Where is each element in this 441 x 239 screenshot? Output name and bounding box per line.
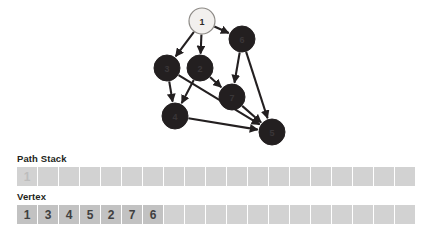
path-stack-cell[interactable]: [185, 167, 205, 186]
vertex-cell[interactable]: [332, 205, 352, 224]
path-stack-cell[interactable]: [332, 167, 352, 186]
graph-node-label: 3: [164, 64, 169, 74]
graph-edge: [176, 32, 194, 57]
path-stack-cell[interactable]: [353, 167, 373, 186]
vertex-cell[interactable]: 5: [80, 205, 100, 224]
graph-panel: 1632745: [0, 0, 441, 152]
vertex-row: 1345276: [17, 205, 415, 224]
path-stack-cell[interactable]: [143, 167, 163, 186]
path-stack-cell[interactable]: 1: [17, 167, 37, 186]
path-stack-row: 1: [17, 167, 415, 186]
graph-node-label: 4: [172, 112, 177, 122]
graph-edge: [214, 27, 228, 34]
vertex-cell[interactable]: 1: [17, 205, 37, 224]
vertex-cell[interactable]: 7: [122, 205, 142, 224]
graph-node-label: 7: [229, 93, 234, 103]
path-stack-cell[interactable]: [290, 167, 310, 186]
path-stack-cell[interactable]: [59, 167, 79, 186]
path-stack-cell[interactable]: [101, 167, 121, 186]
vertex-cell[interactable]: 6: [143, 205, 163, 224]
vertex-cell[interactable]: [206, 205, 226, 224]
vertex-cell[interactable]: [374, 205, 394, 224]
path-stack-cell[interactable]: [164, 167, 184, 186]
path-stack-cell[interactable]: [80, 167, 100, 186]
vertex-title: Vertex: [17, 191, 415, 203]
graph-edge: [169, 81, 172, 101]
path-stack-cell[interactable]: [269, 167, 289, 186]
vertex-cell[interactable]: [227, 205, 247, 224]
path-stack-cell[interactable]: [374, 167, 394, 186]
graph-node-1[interactable]: 1: [189, 8, 215, 34]
path-stack-cell[interactable]: [248, 167, 268, 186]
vertex-cell[interactable]: [248, 205, 268, 224]
graph-node-label: 6: [239, 35, 244, 45]
vertex-cell[interactable]: [353, 205, 373, 224]
graph-edge: [210, 77, 221, 87]
vertex-cell[interactable]: [395, 205, 415, 224]
graph-node-label: 2: [197, 64, 202, 74]
graph-node-7[interactable]: 7: [219, 84, 245, 110]
path-stack-cell[interactable]: [395, 167, 415, 186]
graph-edge: [234, 52, 239, 82]
path-stack-section: Path Stack 1: [17, 153, 415, 186]
path-stack-cell[interactable]: [38, 167, 58, 186]
graph-node-4[interactable]: 4: [162, 103, 188, 129]
vertex-cell[interactable]: [311, 205, 331, 224]
path-stack-cell[interactable]: [311, 167, 331, 186]
vertex-cell[interactable]: [269, 205, 289, 224]
path-stack-cell[interactable]: [122, 167, 142, 186]
graph-edge: [201, 34, 202, 53]
vertex-section: Vertex 1345276: [17, 191, 415, 224]
graph-canvas: 1632745: [0, 0, 441, 152]
graph-node-label: 5: [269, 128, 274, 138]
graph-node-6[interactable]: 6: [229, 26, 255, 52]
graph-edge: [188, 118, 257, 129]
graph-node-label: 1: [199, 17, 204, 27]
vertex-cell[interactable]: 2: [101, 205, 121, 224]
path-stack-cell[interactable]: [206, 167, 226, 186]
graph-node-2[interactable]: 2: [187, 55, 213, 81]
path-stack-cell[interactable]: [227, 167, 247, 186]
vertex-cell[interactable]: [185, 205, 205, 224]
path-stack-title: Path Stack: [17, 153, 415, 165]
vertex-cell[interactable]: [290, 205, 310, 224]
vertex-cell[interactable]: 3: [38, 205, 58, 224]
graph-node-5[interactable]: 5: [259, 119, 285, 145]
vertex-cell[interactable]: 4: [59, 205, 79, 224]
graph-edge: [246, 52, 267, 118]
graph-node-3[interactable]: 3: [154, 55, 180, 81]
vertex-cell[interactable]: [164, 205, 184, 224]
